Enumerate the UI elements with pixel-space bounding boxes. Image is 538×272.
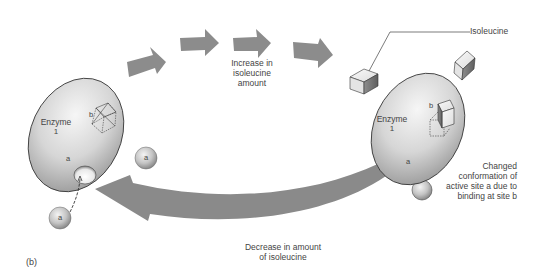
allosteric-regulation-diagram bbox=[0, 0, 538, 272]
substrate-label: a bbox=[141, 153, 151, 163]
decrease-arrow bbox=[95, 163, 386, 221]
arrow-icon bbox=[293, 38, 333, 68]
right-enzyme-name: Enzyme 1 bbox=[372, 114, 412, 134]
arrow-icon bbox=[233, 29, 271, 58]
isoleucine-block bbox=[454, 51, 475, 80]
active-site-a bbox=[74, 166, 96, 184]
decrease-label: Decrease in amount of isoleucine bbox=[228, 242, 338, 262]
arrow-icon bbox=[127, 47, 166, 77]
left-site-b-label: b bbox=[89, 110, 93, 120]
left-site-a-label: a bbox=[66, 154, 70, 164]
increase-label: Increase in isoleucine amount bbox=[222, 58, 282, 88]
conformation-note: Changed conformation of active site a du… bbox=[424, 161, 517, 201]
isoleucine-label: Isoleucine bbox=[470, 26, 508, 36]
isoleucine-block bbox=[350, 69, 378, 94]
substrate-label: a bbox=[55, 213, 65, 223]
right-site-b-label: b bbox=[429, 101, 433, 111]
right-site-a-label: a bbox=[406, 157, 410, 167]
left-enzyme-name: Enzyme 1 bbox=[36, 117, 76, 137]
isoleucine-bound bbox=[438, 100, 454, 128]
panel-label: (b) bbox=[26, 257, 37, 267]
arrow-icon bbox=[180, 29, 219, 56]
